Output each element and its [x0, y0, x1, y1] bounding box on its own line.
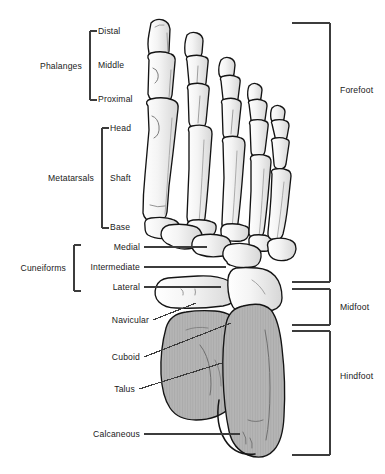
bone-navicular — [155, 276, 237, 308]
sub-label-base: Base — [110, 222, 130, 232]
sub-label-head: Head — [110, 123, 131, 133]
group-label-cuneiforms: Cuneiforms — [21, 263, 66, 273]
bone-metatarsal-5-base — [268, 238, 296, 260]
region-label-hindfoot: Hindfoot — [340, 371, 373, 381]
bone-metatarsal-1 — [143, 98, 178, 222]
region-label-midfoot: Midfoot — [340, 302, 369, 312]
foot-bones-diagram: PhalangesDistalMiddleProximalMetatarsals… — [0, 0, 385, 474]
sub-label-distal: Distal — [98, 26, 120, 36]
group-label-metatarsals: Metatarsals — [48, 173, 94, 183]
callout-label-talus: Talus — [114, 384, 135, 394]
sub-label-shaft: Shaft — [110, 173, 131, 183]
callout-label-navicular: Navicular — [112, 315, 149, 325]
callout-label-calcaneous: Calcaneous — [93, 429, 140, 439]
bone-proximal-phalanx-4 — [249, 120, 268, 157]
region-label-forefoot: Forefoot — [340, 85, 373, 95]
foot-skeleton-illustration — [0, 0, 385, 474]
sub-label-intermediate: Intermediate — [90, 262, 140, 272]
bone-metatarsal-2 — [187, 125, 212, 225]
sub-label-medial: Medial — [114, 242, 140, 252]
sub-label-middle: Middle — [98, 60, 124, 70]
bone-shapes-group — [143, 19, 296, 457]
bone-lateral-cuneiform — [223, 243, 261, 267]
sub-label-lateral: Lateral — [113, 282, 140, 292]
bone-metatarsal-5 — [268, 169, 291, 240]
group-label-phalanges: Phalanges — [40, 61, 82, 71]
bone-proximal-phalanx-1 — [148, 52, 175, 103]
bone-proximal-phalanx-5 — [271, 138, 289, 169]
sub-label-proximal: Proximal — [98, 94, 133, 104]
callout-label-cuboid: Cuboid — [112, 352, 140, 362]
